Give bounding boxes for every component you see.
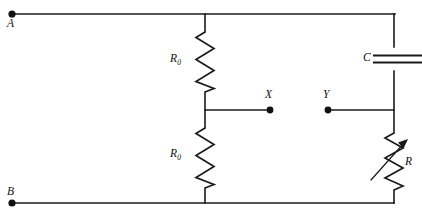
resistor-r0-bottom-zigzag <box>196 128 214 188</box>
component-label-r0-top: R0 <box>170 53 181 65</box>
component-label-r0-bottom-base: R <box>170 147 177 159</box>
circuit-schematic-canvas <box>0 0 422 220</box>
component-label-r0-top-subscript: 0 <box>177 58 181 67</box>
terminal-label-y: Y <box>323 89 329 101</box>
terminal-dot-x[interactable] <box>267 107 274 114</box>
resistor-r0-top-zigzag <box>196 32 214 92</box>
component-label-r: R <box>405 156 412 168</box>
circuit-diagram: A B X Y R0 R0 C R <box>0 0 422 220</box>
terminal-dot-b[interactable] <box>8 199 15 206</box>
terminal-label-b: B <box>7 186 14 198</box>
component-label-r0-bottom: R0 <box>170 148 181 160</box>
terminal-label-a: A <box>7 18 14 30</box>
component-label-c: C <box>363 52 371 64</box>
component-label-r-base: R <box>405 155 412 167</box>
rheostat-arrow-head <box>398 139 408 149</box>
rheostat-arrow-line <box>371 143 404 180</box>
component-label-r0-bottom-subscript: 0 <box>177 153 181 162</box>
terminal-label-x: X <box>265 89 272 101</box>
component-label-r0-top-base: R <box>170 52 177 64</box>
component-label-c-base: C <box>363 51 371 63</box>
terminal-dot-y[interactable] <box>325 107 332 114</box>
